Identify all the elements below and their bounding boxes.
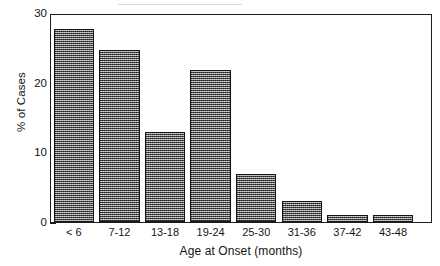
bar-group (51, 15, 431, 222)
x-tick-label-1: 7-12 (96, 226, 142, 238)
bar-19-24 (190, 70, 230, 222)
x-tick-label-2: 13-18 (142, 226, 188, 238)
plot-area (50, 14, 432, 223)
y-tick-label-0: 0 (7, 217, 47, 229)
x-tick-label-7: 43-48 (370, 226, 416, 238)
bar-7-12 (99, 50, 139, 223)
x-tick-label-5: 31-36 (279, 226, 325, 238)
bar-25-30 (236, 174, 276, 222)
y-major-tick-0 (50, 223, 56, 224)
y-tick-label-30: 30 (7, 8, 47, 20)
bar-43-48 (373, 215, 413, 222)
scan-artifact (118, 4, 242, 5)
y-tick-label-20: 20 (7, 78, 47, 90)
x-tick-label-0: < 6 (51, 226, 97, 238)
x-tick-label-4: 25-30 (233, 226, 279, 238)
bar-6 (54, 29, 94, 222)
bar-13-18 (145, 132, 185, 222)
x-tick-label-6: 37-42 (324, 226, 370, 238)
bar-37-42 (327, 215, 367, 222)
y-tick-label-10: 10 (7, 147, 47, 159)
x-tick-label-3: 19-24 (188, 226, 234, 238)
x-axis-title: Age at Onset (months) (50, 244, 432, 258)
bar-chart-figure: % of Cases 30 20 10 0 < 67-1213-1819-242… (0, 0, 440, 266)
bar-31-36 (282, 201, 322, 222)
